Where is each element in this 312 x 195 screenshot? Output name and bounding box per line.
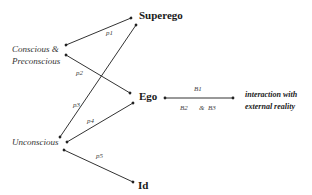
- label-b3: B3: [208, 104, 216, 112]
- node-conscious-line2: Preconscious: [11, 56, 61, 66]
- node-unconscious: Unconscious: [12, 137, 59, 147]
- node-id: Id: [138, 179, 148, 191]
- label-p1: p1: [105, 29, 113, 37]
- label-p3: p3: [72, 101, 81, 109]
- psyche-structure-diagram: Superego Ego Id Conscious & Preconscious…: [0, 0, 312, 195]
- label-p5: p5: [95, 152, 104, 160]
- edge-p1: [66, 18, 131, 45]
- node-conscious-line1: Conscious &: [12, 44, 59, 54]
- node-superego: Superego: [139, 9, 183, 21]
- external-reality-line1: interaction with: [245, 90, 298, 99]
- label-p4: p4: [86, 117, 95, 125]
- node-ego: Ego: [139, 90, 158, 102]
- label-amp: &: [199, 104, 205, 112]
- label-b2: B2: [180, 104, 188, 112]
- edge-p3: [60, 25, 136, 137]
- external-reality-line2: external reality: [245, 102, 295, 111]
- label-p2: p2: [75, 69, 84, 77]
- label-b1: B1: [194, 85, 202, 93]
